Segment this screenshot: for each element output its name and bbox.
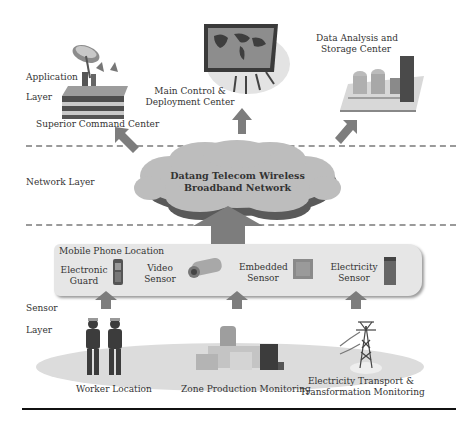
network-layer-label: Network Layer <box>26 177 95 188</box>
arrow-to-main-control-icon <box>232 108 252 134</box>
electronic-guard-label-2: Guard <box>60 276 108 287</box>
embedded-sensor-label-2: Sensor <box>239 273 287 284</box>
video-camera-icon <box>186 256 226 282</box>
embedded-sensor-icon <box>293 259 313 279</box>
mobile-phone-location-label: Mobile Phone Location <box>59 246 164 257</box>
arrow-worker-icon <box>95 291 117 309</box>
sensor-layer-label-2: Layer <box>26 325 52 336</box>
electricity-sensor-icon <box>384 257 396 285</box>
electronic-guard-label-1: Electronic <box>60 265 108 276</box>
command-center-building-icon <box>58 38 130 120</box>
factory-icon <box>190 326 286 374</box>
cloud-label-2: Broadband Network <box>170 182 305 194</box>
bottom-rule <box>22 408 456 410</box>
main-control-label-2: Deployment Center <box>144 97 236 108</box>
sensor-layer-label-1: Sensor <box>26 303 58 314</box>
arrow-transport-icon <box>345 291 367 309</box>
power-tower-icon <box>338 318 398 374</box>
arrow-to-cloud-icon <box>193 206 263 244</box>
transport-label-2: Transformation Monitoring <box>300 387 422 398</box>
video-sensor-label-1: Video <box>142 263 178 274</box>
application-layer-label-2: Layer <box>26 92 52 103</box>
electricity-sensor-label-1: Electricity <box>330 262 378 273</box>
mobile-phone-icon <box>113 259 123 285</box>
worker-location-label: Worker Location <box>76 384 152 395</box>
video-sensor-label-2: Sensor <box>142 274 178 285</box>
cloud-label-1: Datang Telecom Wireless <box>170 170 305 182</box>
electricity-sensor-label-2: Sensor <box>330 273 378 284</box>
zone-production-monitoring-label: Zone Production Monitoring <box>181 384 311 395</box>
main-control-label-1: Main Control & <box>144 86 236 97</box>
transport-label-1: Electricity Transport & <box>300 376 422 387</box>
storage-server-icon <box>338 54 434 116</box>
data-analysis-label-1: Data Analysis and <box>316 33 396 44</box>
arrow-zone-icon <box>226 291 248 309</box>
embedded-sensor-label-1: Embedded <box>239 262 287 273</box>
workers-icon <box>82 318 126 378</box>
